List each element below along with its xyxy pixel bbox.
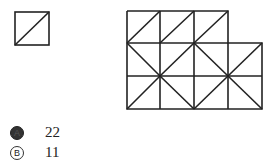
option-a[interactable]: A 22 <box>10 124 60 141</box>
single-tile-icon <box>15 12 49 45</box>
option-b-bubble[interactable]: B <box>10 146 24 160</box>
puzzle-figure <box>0 0 276 120</box>
option-b-value: 11 <box>45 144 59 161</box>
option-a-bubble[interactable]: A <box>10 126 24 140</box>
tiled-grid <box>127 11 262 109</box>
option-a-value: 22 <box>45 124 60 141</box>
option-b[interactable]: B 11 <box>10 144 59 161</box>
